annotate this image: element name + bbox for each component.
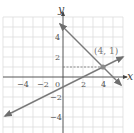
- y-tick-label: −4: [50, 113, 62, 122]
- point-label: (4, 1): [94, 46, 118, 56]
- x-tick-label: −2: [37, 80, 49, 89]
- y-tick-label: 2: [55, 53, 60, 62]
- x-tick-label: 0: [55, 80, 60, 89]
- x-tick-label: 2: [81, 80, 86, 89]
- x-axis-label: x: [127, 70, 134, 83]
- y-tick-label: −2: [50, 93, 62, 102]
- coordinate-plane: x y −4 −2 0 2 4 4 2 −2 −4 (4, 1): [0, 0, 134, 133]
- intersection-point: [100, 64, 105, 69]
- y-tick-label: 4: [55, 33, 60, 42]
- x-tick-label: 4: [101, 80, 106, 89]
- x-tick-label: −4: [17, 80, 29, 89]
- y-axis-label: y: [57, 3, 65, 16]
